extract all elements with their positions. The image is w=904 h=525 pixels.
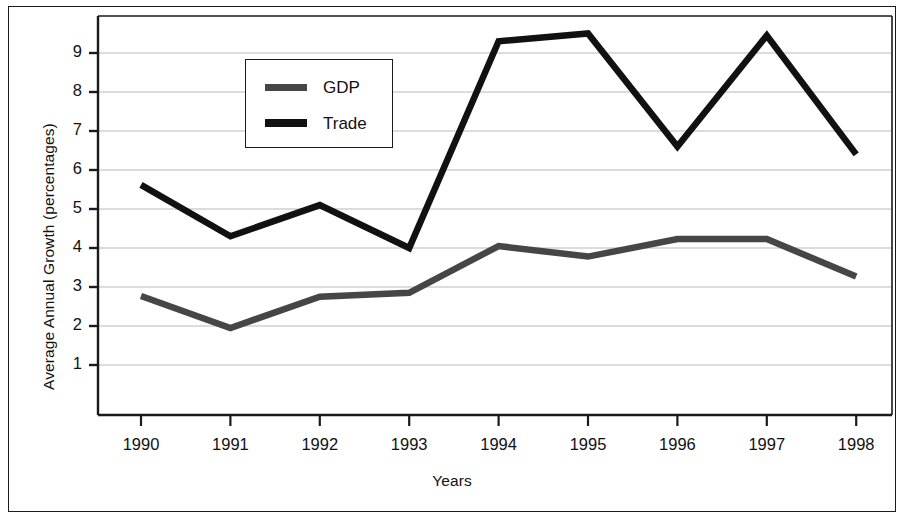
x-tick-label: 1990 xyxy=(106,435,176,454)
chart-figure: Average Annual Growth (percentages) Year… xyxy=(0,0,904,525)
x-tick-label: 1997 xyxy=(732,435,802,454)
y-tick-label: 8 xyxy=(56,81,82,100)
chart-legend: GDP Trade xyxy=(245,59,393,148)
legend-swatch-trade-icon xyxy=(265,119,307,127)
legend-label-gdp: GDP xyxy=(323,79,360,96)
y-tick-label: 7 xyxy=(56,120,82,139)
y-tick-label: 4 xyxy=(56,237,82,256)
legend-entry-gdp: GDP xyxy=(246,72,392,102)
x-tick-label: 1992 xyxy=(285,435,355,454)
x-axis-title: Years xyxy=(0,472,904,490)
x-tick-label: 1994 xyxy=(464,435,534,454)
legend-label-trade: Trade xyxy=(323,115,367,132)
x-tick-label: 1995 xyxy=(553,435,623,454)
legend-entry-trade: Trade xyxy=(246,108,392,138)
x-tick-label: 1998 xyxy=(821,435,891,454)
gridlines xyxy=(98,16,892,415)
x-tick-label: 1991 xyxy=(195,435,265,454)
legend-swatch-gdp-icon xyxy=(265,84,307,91)
y-tick-label: 5 xyxy=(56,198,82,217)
x-axis-ticks xyxy=(141,415,856,426)
y-tick-label: 6 xyxy=(56,159,82,178)
y-tick-label: 9 xyxy=(56,42,82,61)
x-tick-label: 1993 xyxy=(374,435,444,454)
y-tick-label: 3 xyxy=(56,276,82,295)
y-axis-ticks xyxy=(89,53,98,365)
y-tick-label: 2 xyxy=(56,315,82,334)
x-tick-label: 1996 xyxy=(642,435,712,454)
series-line-gdp xyxy=(141,239,856,328)
y-tick-label: 1 xyxy=(56,354,82,373)
